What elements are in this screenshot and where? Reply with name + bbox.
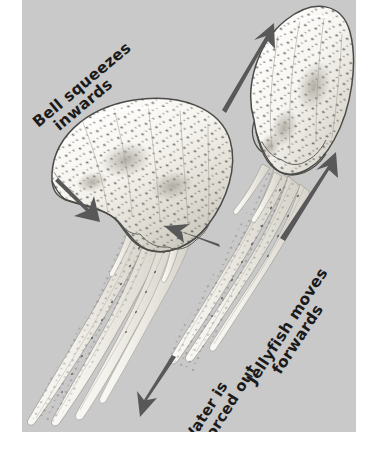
illustration-canvas xyxy=(22,0,356,432)
left-jellyfish xyxy=(22,90,242,432)
jellyfish-locomotion-figure: Bell squeezes inwards Water is forced ou… xyxy=(0,0,365,451)
illustration-panel: Bell squeezes inwards Water is forced ou… xyxy=(22,0,356,432)
right-jellyfish-bell xyxy=(242,0,356,190)
water-forced-out-arrow xyxy=(137,355,176,417)
